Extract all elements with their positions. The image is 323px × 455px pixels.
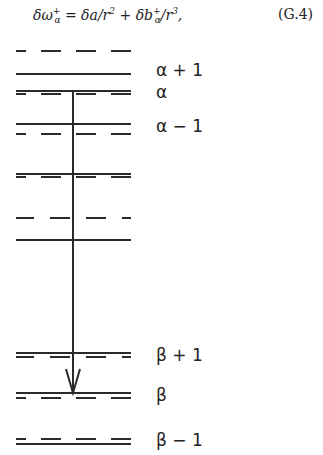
label-beta-minus-1: β − 1 [156,430,203,450]
label-alpha-minus-1: α − 1 [156,116,203,136]
label-alpha-plus-1: α + 1 [156,60,203,80]
label-beta-plus-1: β + 1 [156,345,203,365]
label-alpha: α [156,82,167,102]
label-beta: β [156,385,167,405]
